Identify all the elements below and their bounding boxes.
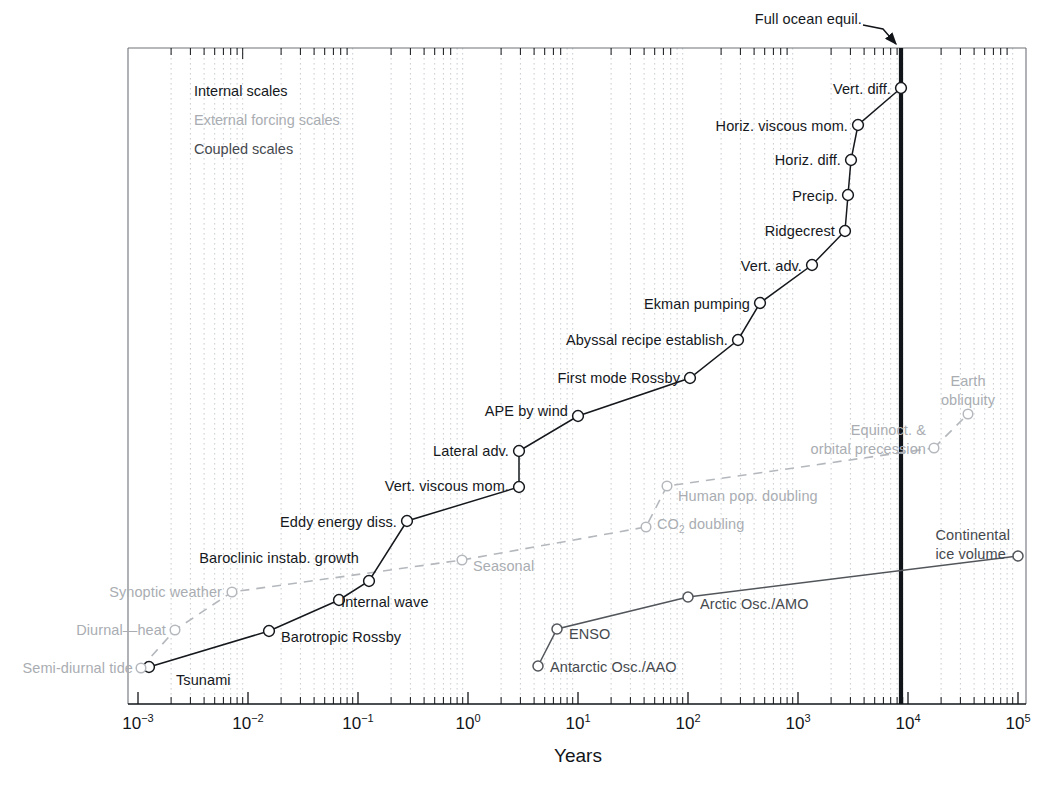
- internal-scales-curve: [149, 88, 901, 667]
- xtick-1e-1: 10−1: [342, 712, 373, 734]
- x-axis-minor-ticks: [171, 697, 1013, 704]
- obliquity-line-2: obliquity: [941, 391, 995, 410]
- point-label-synoptic-weather: Synoptic weather: [109, 584, 222, 600]
- point-label-horiz-viscous-mom: Horiz. viscous mom.: [716, 118, 848, 134]
- x-axis-title: Years: [554, 745, 602, 767]
- point-label-diurnal-heat: Diurnal—heat: [76, 622, 166, 638]
- co2-label-pre: CO: [657, 516, 679, 532]
- point-label-enso: ENSO: [569, 626, 611, 642]
- point-label-equinoct-precession: Equinoct. & orbital precession: [811, 421, 926, 459]
- ice-volume-line-2: ice volume: [936, 545, 1010, 564]
- point-label-seasonal: Seasonal: [473, 558, 534, 574]
- legend-item-coupled[interactable]: Coupled scales: [194, 141, 293, 157]
- obliquity-line-1: Earth: [941, 372, 995, 391]
- point-label-vert-adv: Vert. adv.: [741, 258, 802, 274]
- annotation-full-ocean-equil: Full ocean equil.: [755, 11, 862, 27]
- point-label-ekman-pumping: Ekman pumping: [644, 296, 750, 312]
- x-axis: [128, 692, 1026, 704]
- timescale-chart: Full ocean equil. Internal scales Extern…: [0, 0, 1052, 787]
- xtick-1e3: 103: [785, 712, 810, 734]
- point-label-semi-diurnal-tide: Semi-diurnal tide: [23, 660, 134, 676]
- xtick-1e-2: 10−2: [232, 712, 263, 734]
- point-label-first-mode-rossby: First mode Rossby: [557, 370, 680, 386]
- precession-line-2: orbital precession: [811, 440, 926, 459]
- point-label-eddy-energy-diss: Eddy energy diss.: [280, 514, 397, 530]
- xtick-1e2: 102: [675, 712, 700, 734]
- point-label-barotropic-rossby: Barotropic Rossby: [281, 629, 401, 645]
- point-label-precip: Precip.: [792, 188, 838, 204]
- ice-volume-line-1: Continental: [936, 526, 1010, 545]
- point-label-arctic-osc-amo: Arctic Osc./AMO: [700, 596, 809, 612]
- point-label-vert-viscous-mom: Vert. viscous mom.: [385, 478, 509, 494]
- full-ocean-equil-arrow: [863, 25, 896, 44]
- precession-line-1: Equinoct. &: [811, 421, 926, 440]
- xtick-1e4: 104: [895, 712, 920, 734]
- point-label-human-pop-doubling: Human pop. doubling: [678, 488, 818, 504]
- xtick-1e-3: 10−3: [122, 712, 153, 734]
- xtick-1e5: 105: [1005, 712, 1030, 734]
- point-label-ape-by-wind: APE by wind: [485, 403, 568, 419]
- external-obliquity-branch: [934, 414, 968, 448]
- point-label-co2-doubling: CO2 doubling: [657, 516, 744, 538]
- xtick-1e0: 100: [455, 712, 480, 734]
- point-label-lateral-adv: Lateral adv.: [433, 443, 509, 459]
- point-label-internal-wave: Internal wave: [341, 594, 429, 610]
- point-label-continental-ice-volume: Continental ice volume: [936, 526, 1010, 564]
- legend-item-external[interactable]: External forcing scales: [194, 112, 340, 128]
- point-label-earth-obliquity: Earth obliquity: [941, 372, 995, 410]
- plot-canvas: [0, 0, 1052, 787]
- point-label-horiz-diff: Horiz. diff.: [775, 152, 841, 168]
- point-label-ridgecrest: Ridgecrest: [765, 223, 835, 239]
- top-axis-minor-ticks: [171, 48, 1007, 59]
- point-label-antarctic-osc-aao: Antarctic Osc./AAO: [550, 659, 677, 675]
- xtick-1e1: 101: [565, 712, 590, 734]
- point-label-baroclinic-instab-growth: Baroclinic instab. growth: [199, 550, 359, 566]
- point-label-vert-diff: Vert. diff.: [833, 81, 891, 97]
- point-label-tsunami: Tsunami: [176, 672, 231, 688]
- legend-item-internal[interactable]: Internal scales: [194, 83, 288, 99]
- point-label-abyssal-recipe: Abyssal recipe establish.: [566, 332, 728, 348]
- co2-label-post: doubling: [685, 516, 745, 532]
